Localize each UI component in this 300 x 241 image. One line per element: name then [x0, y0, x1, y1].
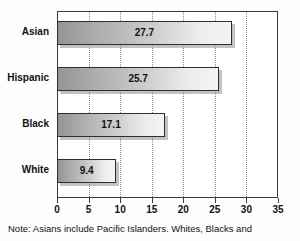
tick-mark-30: [246, 198, 247, 203]
tick-mark-10: [120, 198, 121, 203]
bar-row: 17.1: [57, 113, 278, 137]
tick-mark-5: [89, 198, 90, 203]
category-label-black: Black: [0, 112, 49, 136]
bar-row: 9.4: [57, 159, 278, 183]
bars-layer: 27.725.717.19.4: [57, 12, 277, 197]
category-label-white: White: [0, 158, 49, 182]
x-tick-label-10: 10: [105, 204, 135, 215]
bar-value-label-hispanic: 25.7: [57, 67, 219, 91]
x-tick-label-15: 15: [137, 204, 167, 215]
category-label-hispanic: Hispanic: [0, 66, 49, 90]
bar-value-label-asian: 27.7: [57, 21, 232, 45]
plot-area: 27.725.717.19.4: [57, 11, 278, 198]
tick-mark-25: [215, 198, 216, 203]
x-tick-label-25: 25: [200, 204, 230, 215]
tick-mark-20: [183, 198, 184, 203]
bar-chart-figure: 27.725.717.19.4 AsianHispanicBlackWhite …: [0, 0, 300, 241]
bar-row: 25.7: [57, 67, 278, 91]
x-tick-label-5: 5: [74, 204, 104, 215]
bar-row: 27.7: [57, 21, 278, 45]
x-tick-label-20: 20: [168, 204, 198, 215]
x-tick-label-35: 35: [263, 204, 293, 215]
tick-mark-15: [152, 198, 153, 203]
bar-value-label-white: 9.4: [57, 159, 116, 183]
tick-mark-0: [57, 198, 58, 203]
x-tick-label-30: 30: [231, 204, 261, 215]
tick-mark-35: [278, 198, 279, 203]
chart-footnote: Note: Asians include Pacific Islanders. …: [8, 223, 300, 234]
x-tick-label-0: 0: [42, 204, 72, 215]
bar-value-label-black: 17.1: [57, 113, 165, 137]
category-label-asian: Asian: [0, 20, 49, 44]
